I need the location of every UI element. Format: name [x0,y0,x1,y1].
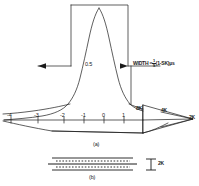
formula-denominator: S [152,64,155,68]
half-amplitude-label: 0.5 [85,62,92,68]
axis-tick-label-zero: 0 [102,113,105,119]
axis-tick-label-one: 1 [122,113,125,119]
formula-bracket: (1-SK) [156,60,170,66]
lobe-4k [143,119,193,120]
width-formula-label: WIDTH =1S(1-SK)µs [133,59,175,68]
panel-b-scale-label: 2K [158,161,164,166]
lower-envelope-right [143,123,168,133]
span-bracket-2k [146,159,156,170]
panel-a [3,5,193,133]
formula-fraction: 1S [152,59,155,68]
marker-label-4k: 4K [161,108,167,113]
lower-envelope-flat [52,131,143,133]
tail-lobes [143,105,193,133]
axis-tick-label-minus3: -3 [34,113,39,119]
marker-label-8k: 8K [136,106,142,111]
panel-b [48,158,156,170]
axis-tick-label-minus2: -2 [60,113,65,119]
marker-label-2k: 2K [189,115,195,120]
formula-lead: WIDTH = [133,60,152,66]
caption-panel-a: (a) [93,142,99,148]
axis-tick-label-minus4: -4 [7,113,12,119]
top-rectangle [71,5,128,66]
formula-units: µs [169,60,174,66]
caption-panel-b: (b) [89,175,95,181]
axis-tick-label-minus1: -1 [81,113,86,119]
figure-canvas [0,0,199,186]
